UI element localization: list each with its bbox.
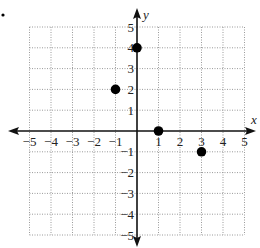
data-point [197,147,207,157]
x-tick-label: 1 [155,134,162,149]
data-point [132,43,142,53]
coordinate-plane: xy −5−4−3−2−11234554321−1−2−3−4−5 [0,0,260,248]
y-tick-label: −3 [120,186,134,201]
data-point [154,126,164,136]
data-point [111,85,121,95]
x-axis-label: x [250,112,257,127]
x-tick-label: 5 [241,134,248,149]
x-tick-label: −2 [87,134,101,149]
bullet-marker [1,13,4,16]
x-tick-label: 3 [198,134,205,149]
x-tick-label: −4 [44,134,58,149]
y-tick-label: 3 [128,61,135,76]
x-tick-label: 4 [220,134,227,149]
y-tick-label: 1 [128,103,135,118]
x-tick-label: 2 [177,134,184,149]
y-tick-label: −1 [120,144,134,159]
y-axis-label: y [141,7,149,22]
y-tick-label: 2 [128,82,135,97]
y-tick-label: −4 [120,207,134,222]
y-tick-label: −5 [120,228,134,243]
x-tick-label: −3 [66,134,80,149]
x-tick-label: −5 [23,134,37,149]
y-tick-label: −2 [120,165,134,180]
y-tick-label: 5 [128,20,135,35]
